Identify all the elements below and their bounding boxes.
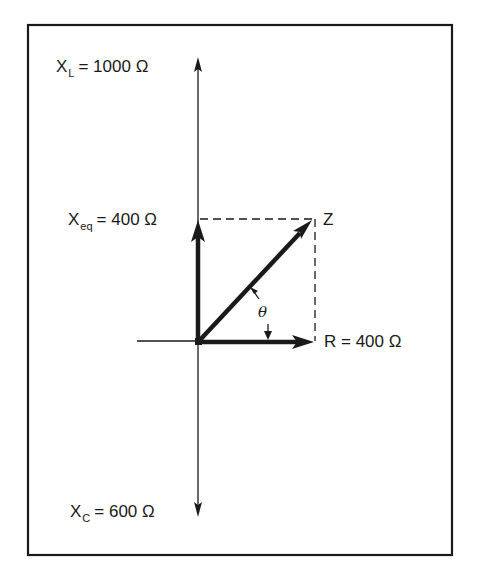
label-xeq-subscript: eq [80, 220, 92, 232]
label-xc-value: = 600 Ω [94, 502, 154, 521]
label-xl: XL= 1000 Ω [56, 58, 148, 79]
label-r: R = 400 Ω [324, 333, 401, 350]
label-xl-value: = 1000 Ω [78, 57, 148, 76]
label-xeq-symbol: X [68, 210, 79, 229]
diagram-frame [28, 25, 452, 555]
label-xc-symbol: X [70, 502, 81, 521]
diagram-graphics [0, 0, 478, 580]
label-theta-text: θ [258, 303, 267, 321]
label-xeq-value: = 400 Ω [97, 210, 157, 229]
label-xc-subscript: C [82, 512, 90, 524]
label-xl-symbol: X [56, 57, 67, 76]
origin-point [195, 338, 202, 345]
label-z: Z [323, 211, 333, 228]
label-xl-subscript: L [68, 67, 74, 79]
phasor-diagram: XL= 1000 Ω Xeq= 400 Ω Z θ R = 400 Ω XC= … [0, 0, 478, 580]
angle-arrowhead-r-icon [264, 331, 272, 340]
label-theta: θ [258, 305, 267, 320]
label-xc: XC= 600 Ω [70, 503, 155, 524]
angle-arrowhead-z-icon [250, 287, 258, 294]
label-r-text: R = 400 Ω [324, 332, 401, 351]
label-z-text: Z [323, 210, 333, 229]
label-xeq: Xeq= 400 Ω [68, 211, 157, 232]
z-phasor [199, 233, 300, 341]
